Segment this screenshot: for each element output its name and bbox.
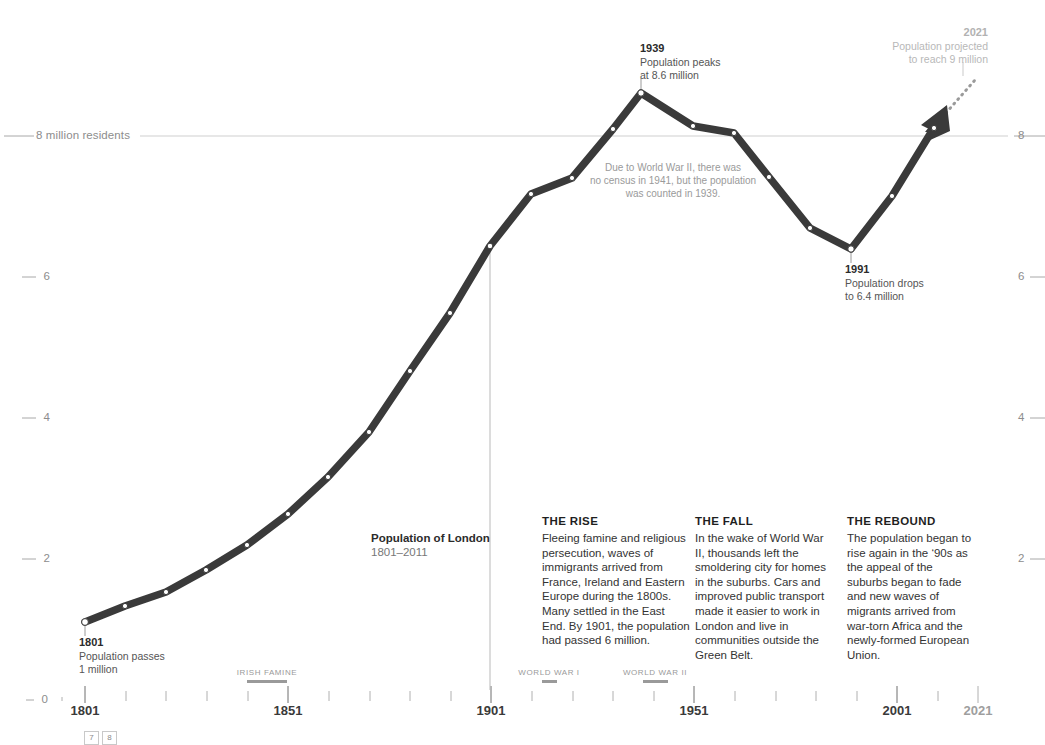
era-label-irish-famine: IRISH FAMINE	[228, 668, 306, 678]
callout-1939-peak: 1939 Population peaks at 8.6 million	[640, 42, 790, 82]
era-marker-world-war-1: WORLD WAR I	[514, 668, 584, 683]
x-axis-label-1801: 1801	[45, 703, 125, 718]
story-the-fall: THE FALL In the wake of World War II, th…	[695, 514, 827, 662]
war-note-line1: Due to World War II, there was	[573, 161, 773, 174]
x-axis-label-2021: 2021	[938, 703, 1018, 718]
page-number-right[interactable]: 8	[102, 731, 117, 745]
era-bar-world-war-1	[542, 680, 557, 683]
callout-1991-trough: 1991 Population drops to 6.4 million	[845, 263, 995, 303]
era-label-world-war-2: WORLD WAR II	[619, 668, 691, 678]
callout-1939-line2: at 8.6 million	[640, 69, 790, 82]
x-axis-label-1951: 1951	[654, 703, 734, 718]
callout-2021-year: 2021	[838, 26, 988, 39]
x-axis-label-1851: 1851	[248, 703, 328, 718]
page-indicator: 7 8	[84, 731, 117, 745]
war-note-line3: was counted in 1939.	[573, 187, 773, 200]
y-axis-label-0: 0	[0, 693, 48, 705]
y-axis-label-4: 4	[0, 411, 50, 423]
callout-1991-year: 1991	[845, 263, 995, 276]
y-axis-label-8-million: 8 million residents	[0, 129, 130, 141]
era-bar-irish-famine	[247, 680, 287, 683]
story-body-rebound: The population began to rise again in th…	[847, 531, 973, 662]
callout-1991-line1: Population drops	[845, 277, 995, 290]
right-axis-ticks	[1014, 136, 1045, 559]
era-label-world-war-1: WORLD WAR I	[514, 668, 584, 678]
callout-1939-line1: Population peaks	[640, 56, 790, 69]
era-marker-world-war-2: WORLD WAR II	[619, 668, 691, 683]
story-heading-rise: THE RISE	[542, 514, 690, 528]
y-axis-label-6: 6	[0, 270, 50, 282]
y-axis-label-2: 2	[0, 552, 50, 564]
callout-1801-line2: 1 million	[79, 663, 229, 676]
callout-1939-year: 1939	[640, 42, 790, 55]
story-the-rebound: THE REBOUND The population began to rise…	[847, 514, 973, 662]
callout-1801-line1: Population passes	[79, 650, 229, 663]
chart-title: Population of London	[371, 531, 490, 545]
story-heading-rebound: THE REBOUND	[847, 514, 973, 528]
x-axis-label-1901: 1901	[451, 703, 531, 718]
story-body-fall: In the wake of World War II, thousands l…	[695, 531, 827, 662]
callout-2021-line1: Population projected	[838, 40, 988, 53]
story-the-rise: THE RISE Fleeing famine and religious pe…	[542, 514, 690, 648]
war-note-line2: no census in 1941, but the population	[573, 174, 773, 187]
y-axis-right-label-6: 6	[1018, 270, 1042, 282]
callout-2021-line2: to reach 9 million	[838, 53, 988, 66]
callout-1991-line2: to 6.4 million	[845, 290, 995, 303]
story-body-rise: Fleeing famine and religious persecution…	[542, 531, 690, 648]
y-axis-right-label-2: 2	[1018, 552, 1042, 564]
callout-1801-year: 1801	[79, 636, 229, 649]
y-axis-right-label-4: 4	[1018, 411, 1042, 423]
x-axis-ticks	[62, 686, 978, 703]
y-axis-right-label-8: 8	[1018, 129, 1042, 141]
era-marker-irish-famine: IRISH FAMINE	[228, 668, 306, 683]
chart-subtitle: 1801–2011	[371, 545, 490, 559]
story-heading-fall: THE FALL	[695, 514, 827, 528]
callout-2021-projection: 2021 Population projected to reach 9 mil…	[838, 26, 988, 66]
era-bar-world-war-2	[643, 680, 668, 683]
callout-1801-start: 1801 Population passes 1 million	[79, 636, 229, 676]
infographic-canvas: 8 million residents 6 4 2 0 8 6 4 2 1801…	[0, 0, 1045, 745]
world-war-census-note: Due to World War II, there was no census…	[573, 161, 773, 200]
page-number-left[interactable]: 7	[84, 731, 99, 745]
x-axis-label-2001: 2001	[857, 703, 937, 718]
chart-title-block: Population of London 1801–2011	[371, 531, 490, 559]
